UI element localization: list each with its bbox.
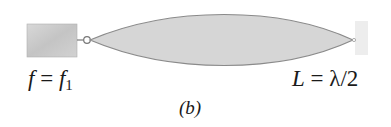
oscillator-block — [27, 24, 77, 57]
fixed-wall — [355, 21, 368, 55]
fixed-end-node — [352, 38, 355, 41]
length-label: L = λ/2 — [292, 66, 358, 92]
panel-label: (b) — [179, 97, 201, 119]
frequency-label: f = f1 — [28, 66, 73, 94]
string-envelope — [90, 15, 353, 66]
